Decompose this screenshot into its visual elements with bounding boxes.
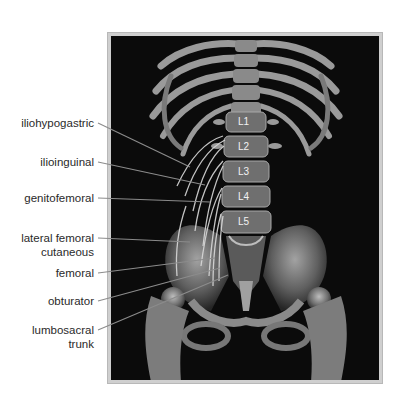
figure-frame: L1 L2 L3 L4 L5: [107, 32, 383, 384]
vertebra-label-l1: L1: [238, 116, 249, 127]
label-lumbosacral-trunk: lumbosacral trunk: [32, 323, 94, 351]
label-text: lumbosacral: [32, 323, 94, 337]
label-obturator: obturator: [48, 294, 94, 308]
label-text: cutaneous: [21, 245, 94, 259]
label-text: iliohypogastric: [21, 117, 94, 129]
label-text: trunk: [32, 337, 94, 351]
label-iliohypogastric: iliohypogastric: [21, 116, 94, 130]
skeleton-illustration: [111, 36, 379, 380]
label-text: femoral: [56, 267, 94, 279]
label-text: genitofemoral: [24, 192, 94, 204]
vertebra-label-l5: L5: [238, 216, 249, 227]
label-text: obturator: [48, 295, 94, 307]
vertebra-label-l4: L4: [238, 191, 249, 202]
label-text: lateral femoral: [21, 231, 94, 245]
label-ilioinguinal: ilioinguinal: [40, 155, 94, 169]
label-text: ilioinguinal: [40, 156, 94, 168]
skeleton-image: L1 L2 L3 L4 L5: [111, 36, 379, 380]
vertebra-label-l3: L3: [238, 166, 249, 177]
label-genitofemoral: genitofemoral: [24, 191, 94, 205]
label-lateral-femoral-cutaneous: lateral femoral cutaneous: [21, 231, 94, 259]
label-femoral: femoral: [56, 266, 94, 280]
vertebra-label-l2: L2: [238, 141, 249, 152]
